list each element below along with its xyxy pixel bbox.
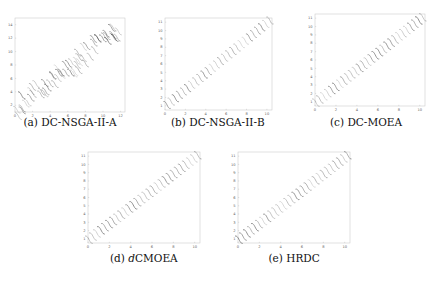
y-tick-label: 8 [160, 45, 163, 49]
plot-frame [315, 14, 425, 106]
x-tick-label: 10 [265, 112, 270, 116]
x-tick-label: 0 [87, 245, 90, 249]
y-tick-label: 5 [83, 204, 85, 208]
x-tick-label: 2 [258, 245, 260, 249]
x-tick-label: 12 [118, 114, 123, 118]
y-tick-label: 8 [10, 63, 13, 67]
caption-d: (d) dCMOEA [110, 252, 178, 264]
caption-label: (d) [110, 252, 128, 264]
x-tick-label: 4 [280, 245, 283, 249]
y-tick-label: 11 [158, 20, 163, 24]
plot-panel-c: 02468101234567891011 [315, 14, 425, 106]
data-points [13, 24, 122, 119]
y-tick-label: 5 [160, 71, 162, 75]
y-tick-label: 8 [233, 179, 236, 183]
x-tick-label: 4 [130, 245, 133, 249]
caption-label: (b) [171, 116, 189, 128]
y-tick-label: 7 [310, 50, 312, 54]
y-tick-label: 9 [233, 171, 236, 175]
x-tick-label: 0 [314, 108, 317, 112]
y-tick-label: 8 [310, 41, 313, 45]
y-tick-label: 5 [310, 67, 312, 71]
y-tick-label: 1 [233, 237, 235, 241]
y-tick-label: 8 [83, 179, 86, 183]
y-tick-label: 7 [233, 187, 235, 191]
y-tick-label: 4 [160, 79, 163, 83]
y-tick-label: 10 [81, 163, 86, 167]
caption-italic: d [128, 252, 135, 264]
x-tick-label: 8 [172, 245, 175, 249]
y-tick-label: 3 [160, 87, 162, 91]
x-tick-label: 10 [417, 108, 422, 112]
caption-c: (c) DC-MOEA [330, 116, 402, 128]
scatter-plot: 0246810122468101214 [15, 18, 125, 112]
y-tick-label: 10 [308, 25, 313, 29]
x-tick-label: 2 [108, 245, 110, 249]
y-tick-label: 9 [160, 37, 163, 41]
caption-b: (b) DC-NSGA-II-B [171, 116, 265, 128]
plot-frame [88, 152, 200, 243]
y-tick-label: 3 [83, 221, 85, 225]
x-tick-label: 6 [151, 245, 154, 249]
data-points [85, 152, 201, 244]
y-tick-label: 10 [158, 29, 163, 33]
y-tick-label: 6 [310, 58, 313, 62]
y-tick-label: 1 [310, 100, 312, 104]
y-tick-label: 7 [160, 54, 162, 58]
y-tick-label: 1 [160, 104, 162, 108]
caption-name: CMOEA [135, 252, 178, 264]
y-tick-label: 2 [233, 229, 235, 233]
caption-label: (a) [24, 116, 42, 128]
data-points [312, 14, 426, 107]
x-tick-label: 6 [377, 108, 380, 112]
y-tick-label: 9 [310, 33, 313, 37]
caption-label: (c) [330, 116, 347, 128]
y-tick-label: 2 [83, 229, 85, 233]
caption-name: DC-MOEA [347, 116, 402, 128]
data-points [164, 17, 274, 109]
y-tick-label: 4 [310, 75, 313, 79]
y-tick-label: 3 [310, 83, 312, 87]
y-tick-label: 10 [8, 50, 13, 54]
x-tick-label: 8 [398, 108, 401, 112]
scatter-plot: 02468101234567891011 [88, 152, 200, 243]
x-tick-label: 0 [164, 112, 167, 116]
y-tick-label: 9 [83, 171, 86, 175]
y-tick-label: 2 [310, 92, 312, 96]
y-tick-label: 3 [233, 221, 235, 225]
y-tick-label: 2 [10, 103, 12, 107]
x-tick-label: 10 [342, 245, 347, 249]
x-tick-label: 0 [237, 245, 240, 249]
plot-panel-d: 02468101234567891011 [88, 152, 200, 243]
plot-frame [238, 152, 350, 243]
y-tick-label: 2 [160, 96, 162, 100]
y-tick-label: 5 [233, 204, 235, 208]
y-tick-label: 12 [8, 36, 13, 40]
y-tick-label: 4 [83, 212, 86, 216]
data-points [235, 152, 351, 244]
caption-name: DC-NSGA-II-B [189, 116, 264, 128]
y-tick-label: 10 [231, 163, 236, 167]
y-tick-label: 4 [233, 212, 236, 216]
plot-panel-b: 02468101234567891011 [165, 18, 272, 110]
plot-panel-a: 0246810122468101214 [15, 18, 125, 112]
y-tick-label: 11 [308, 16, 313, 20]
x-tick-label: 2 [335, 108, 337, 112]
y-tick-label: 6 [10, 77, 13, 81]
caption-label: (e) [269, 252, 287, 264]
y-tick-label: 6 [233, 196, 236, 200]
plot-frame [15, 18, 125, 112]
y-tick-label: 11 [231, 154, 236, 158]
x-tick-label: 8 [322, 245, 325, 249]
y-tick-label: 6 [160, 62, 163, 66]
y-tick-label: 4 [10, 90, 13, 94]
plot-frame [165, 18, 272, 110]
caption-name: HRDC [286, 252, 320, 264]
plot-panel-e: 02468101234567891011 [238, 152, 350, 243]
y-tick-label: 11 [81, 154, 86, 158]
scatter-plot: 02468101234567891011 [238, 152, 350, 243]
y-tick-label: 7 [83, 187, 85, 191]
caption-a: (a) DC-NSGA-II-A [24, 116, 117, 128]
x-tick-label: 6 [301, 245, 304, 249]
scatter-plot: 02468101234567891011 [165, 18, 272, 110]
